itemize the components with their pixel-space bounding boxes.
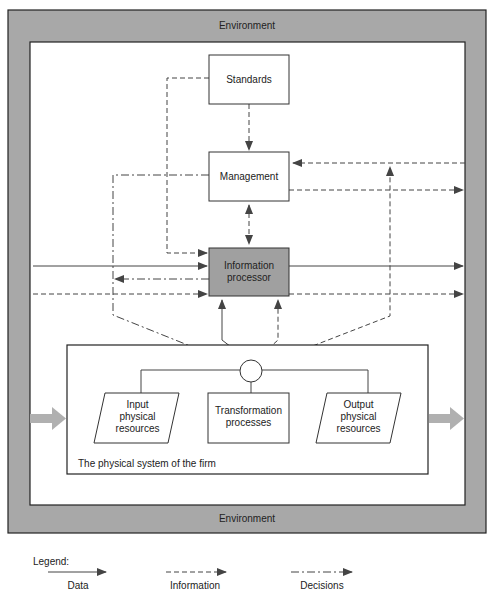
- information-processor-label: Information processor: [209, 260, 289, 284]
- legend-information-label: Information: [165, 580, 225, 592]
- output-resources-label: Output physical resources: [321, 399, 396, 435]
- input-line-1: Input: [100, 399, 175, 411]
- transformation-line-2: processes: [208, 417, 289, 429]
- input-line-2: physical: [100, 411, 175, 423]
- control-circle: [240, 360, 262, 382]
- management-label: Management: [209, 152, 289, 201]
- legend-data-label: Data: [58, 580, 98, 592]
- input-resources-label: Input physical resources: [100, 399, 175, 435]
- transformation-label: Transformation processes: [208, 405, 289, 429]
- input-line-3: resources: [100, 423, 175, 435]
- output-line-3: resources: [321, 423, 396, 435]
- output-line-2: physical: [321, 411, 396, 423]
- output-line-1: Output: [321, 399, 396, 411]
- transformation-line-1: Transformation: [208, 405, 289, 417]
- physical-system-label: The physical system of the firm: [78, 458, 216, 470]
- environment-label-top: Environment: [8, 20, 486, 32]
- legend-title: Legend:: [33, 556, 69, 568]
- processor-line-2: processor: [209, 272, 289, 284]
- environment-label-bottom: Environment: [8, 513, 486, 525]
- processor-line-1: Information: [209, 260, 289, 272]
- legend-decisions-label: Decisions: [292, 580, 352, 592]
- standards-label: Standards: [209, 55, 289, 104]
